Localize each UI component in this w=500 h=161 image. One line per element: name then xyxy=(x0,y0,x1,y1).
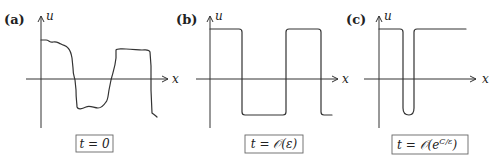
panel-a-x-label: x xyxy=(172,72,179,86)
panel-c: (c) u x t = 𝒪(eC/ε) xyxy=(346,9,489,154)
panel-c-curve xyxy=(379,29,466,115)
panel-c-caption-end: ) xyxy=(451,138,457,152)
figure: (a) u x t = 0 (b) u x t = 𝒪(ε) (c) u x t… xyxy=(0,0,500,161)
panel-a-label: (a) xyxy=(4,12,25,27)
panel-c-label: (c) xyxy=(346,12,366,27)
panel-a: (a) u x t = 0 xyxy=(4,9,179,152)
panel-a-caption: t = 0 xyxy=(79,137,110,151)
panel-c-x-label: x xyxy=(482,72,489,86)
panel-b-curve xyxy=(210,29,332,115)
panel-a-u-label: u xyxy=(46,9,54,23)
panel-c-caption-main: t = 𝒪(e xyxy=(397,138,439,152)
panel-b-caption: t = 𝒪(ε) xyxy=(251,137,298,151)
panel-b-x-label: x xyxy=(342,72,349,86)
panel-b-u-label: u xyxy=(215,9,223,23)
panel-c-caption-sup: C/ε xyxy=(439,137,452,146)
panel-b-label: (b) xyxy=(176,12,197,27)
panel-c-u-label: u xyxy=(384,9,392,23)
panel-b: (b) u x t = 𝒪(ε) xyxy=(176,9,349,153)
